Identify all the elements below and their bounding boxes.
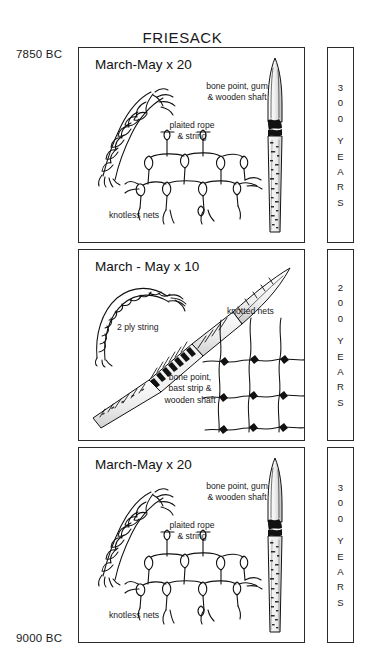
duration-box-2: 2 0 0 Y E A R S bbox=[327, 249, 354, 441]
duration-char: A bbox=[337, 364, 343, 379]
duration-char: S bbox=[337, 595, 343, 610]
phase-panel-1: March-May x 20 plaited rope & string bbox=[78, 47, 305, 243]
duration-char: Y bbox=[337, 133, 343, 148]
phase-panel-3: March-May x 20 plaited rope & string bbox=[78, 447, 305, 643]
caption-bone-point: bone point, gum & wooden shaft bbox=[191, 481, 283, 504]
duration-char: Y bbox=[337, 533, 343, 548]
caption-bone-point: bone point, gum & wooden shaft bbox=[191, 81, 283, 104]
caption-line: & wooden shaft bbox=[191, 92, 283, 103]
duration-char: A bbox=[337, 564, 343, 579]
caption-knotless-nets: knotless nets bbox=[109, 610, 159, 621]
duration-char: 0 bbox=[338, 311, 343, 326]
knotless-net-drawing bbox=[141, 126, 263, 226]
date-label-bottom: 9000 BC bbox=[16, 632, 62, 644]
panel-heading: March-May x 20 bbox=[95, 57, 192, 72]
caption-knotted-nets: knotted nets bbox=[227, 306, 274, 317]
caption-line: bone point, gum bbox=[191, 81, 283, 92]
phase-panel-2: March - May x 10 2 ply string bbox=[78, 249, 305, 441]
duration-char: E bbox=[337, 149, 343, 164]
duration-char: S bbox=[337, 395, 343, 410]
caption-line: & wooden shaft bbox=[191, 492, 283, 503]
figure-title: FRIESACK bbox=[0, 29, 365, 46]
duration-char: 0 bbox=[338, 495, 343, 510]
duration-char: E bbox=[337, 349, 343, 364]
knotless-net-drawing bbox=[141, 526, 263, 626]
caption-knotless-nets: knotless nets bbox=[109, 210, 159, 221]
duration-char: 3 bbox=[338, 80, 343, 95]
duration-box-3: 3 0 0 Y E A R S bbox=[327, 447, 354, 643]
duration-char: S bbox=[337, 195, 343, 210]
duration-char: 3 bbox=[338, 480, 343, 495]
duration-char: 0 bbox=[338, 111, 343, 126]
panel-heading: March-May x 20 bbox=[95, 457, 192, 472]
duration-char: R bbox=[337, 379, 344, 394]
duration-char: 0 bbox=[338, 511, 343, 526]
duration-char: E bbox=[337, 549, 343, 564]
duration-char: 0 bbox=[338, 95, 343, 110]
duration-char: 2 bbox=[338, 280, 343, 295]
date-label-top: 7850 BC bbox=[16, 48, 62, 60]
duration-char: A bbox=[337, 164, 343, 179]
knotted-net-drawing bbox=[209, 318, 305, 436]
caption-line: bone point, gum bbox=[191, 481, 283, 492]
duration-char: 0 bbox=[338, 295, 343, 310]
duration-char: R bbox=[337, 579, 344, 594]
duration-char: R bbox=[337, 179, 344, 194]
duration-char: Y bbox=[337, 333, 343, 348]
duration-box-1: 3 0 0 Y E A R S bbox=[327, 47, 354, 243]
